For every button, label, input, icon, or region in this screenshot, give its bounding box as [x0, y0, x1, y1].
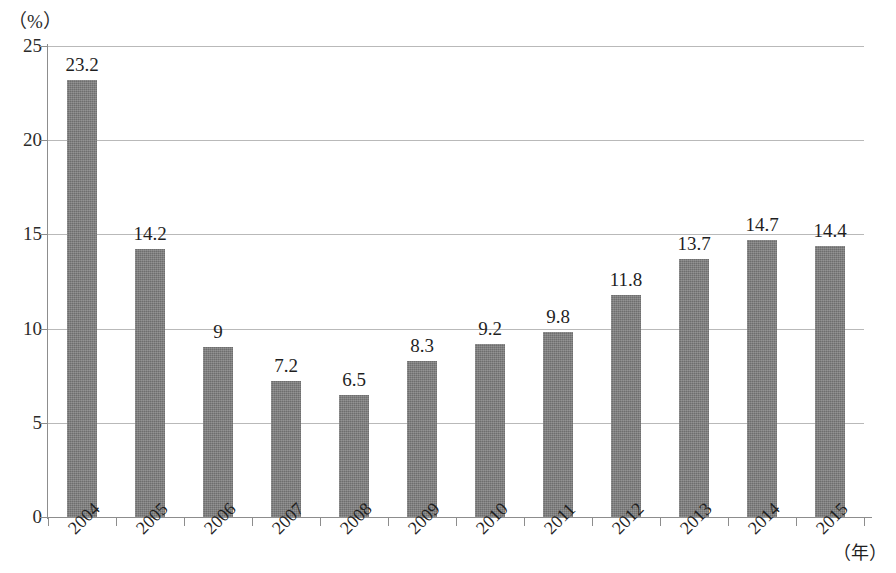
- x-axis-tick-mark: [660, 517, 661, 526]
- bar-value-label: 6.5: [342, 369, 366, 391]
- plot-area: 23.214.297.26.58.39.29.811.813.714.714.4: [48, 46, 864, 517]
- bar-value-label: 11.8: [610, 269, 643, 291]
- bar[interactable]: [543, 332, 573, 517]
- x-axis-title: （年）: [833, 538, 887, 564]
- bar-slot: 23.2: [48, 46, 116, 517]
- bar-slot: 9.8: [524, 46, 592, 517]
- x-axis-tick-mark: [796, 517, 797, 526]
- y-axis-tick-label: 15: [2, 223, 42, 245]
- bar-value-label: 23.2: [65, 54, 98, 76]
- bar-value-label: 9.2: [478, 318, 502, 340]
- bar[interactable]: [339, 395, 369, 517]
- x-axis-tick-mark: [320, 517, 321, 526]
- bar[interactable]: [135, 249, 165, 517]
- bar-value-label: 8.3: [410, 335, 434, 357]
- bar-value-label: 9.8: [546, 306, 570, 328]
- bar[interactable]: [407, 361, 437, 517]
- x-axis-tick-mark: [252, 517, 253, 526]
- y-axis-tick-mark: [40, 329, 48, 330]
- bar-slot: 9: [184, 46, 252, 517]
- bar-slot: 11.8: [592, 46, 660, 517]
- bar[interactable]: [747, 240, 777, 517]
- bars-group: 23.214.297.26.58.39.29.811.813.714.714.4: [48, 46, 864, 517]
- y-axis-tick-label: 25: [2, 35, 42, 57]
- y-axis-tick-label: 0: [2, 506, 42, 528]
- bar-slot: 14.4: [796, 46, 864, 517]
- bar-slot: 8.3: [388, 46, 456, 517]
- bar-chart: （%） 23.214.297.26.58.39.29.811.813.714.7…: [0, 0, 896, 573]
- bar-slot: 14.7: [728, 46, 796, 517]
- bar-slot: 6.5: [320, 46, 388, 517]
- bar-slot: 14.2: [116, 46, 184, 517]
- bar[interactable]: [67, 80, 97, 517]
- x-axis-tick-mark: [524, 517, 525, 526]
- bar[interactable]: [611, 295, 641, 517]
- y-axis-tick-mark: [40, 140, 48, 141]
- x-axis-tick-mark: [864, 517, 865, 526]
- bar[interactable]: [679, 259, 709, 517]
- bar-value-label: 9: [213, 321, 223, 343]
- bar-value-label: 14.7: [745, 214, 778, 236]
- y-axis-tick-mark: [40, 234, 48, 235]
- bar[interactable]: [203, 347, 233, 517]
- y-axis-unit-label: （%）: [8, 6, 62, 33]
- y-axis-tick-mark: [40, 517, 48, 518]
- bar[interactable]: [475, 344, 505, 517]
- bar-value-label: 14.4: [813, 220, 846, 242]
- bar-value-label: 13.7: [677, 233, 710, 255]
- bar[interactable]: [271, 381, 301, 517]
- x-axis-tick-mark: [48, 517, 49, 526]
- y-axis-tick-mark: [40, 423, 48, 424]
- y-axis-tick-label: 5: [2, 412, 42, 434]
- x-axis-tick-mark: [592, 517, 593, 526]
- bar-slot: 13.7: [660, 46, 728, 517]
- x-axis-tick-mark: [388, 517, 389, 526]
- bar-value-label: 7.2: [274, 355, 298, 377]
- bar-value-label: 14.2: [133, 223, 166, 245]
- bar[interactable]: [815, 246, 845, 517]
- bar-slot: 9.2: [456, 46, 524, 517]
- x-axis-tick-mark: [728, 517, 729, 526]
- x-axis-tick-mark: [116, 517, 117, 526]
- x-axis-tick-mark: [184, 517, 185, 526]
- x-axis-tick-mark: [456, 517, 457, 526]
- y-axis-tick-mark: [40, 46, 48, 47]
- y-axis-tick-label: 20: [2, 129, 42, 151]
- y-axis-tick-label: 10: [2, 318, 42, 340]
- bar-slot: 7.2: [252, 46, 320, 517]
